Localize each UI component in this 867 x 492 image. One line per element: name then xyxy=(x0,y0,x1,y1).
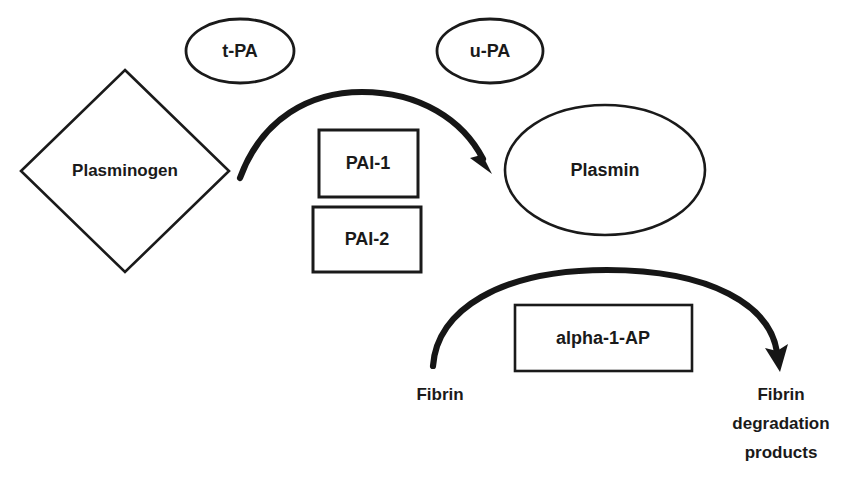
plasmin-label: Plasmin xyxy=(570,160,639,180)
node-plasmin: Plasmin xyxy=(505,105,705,235)
plasminogen-label: Plasminogen xyxy=(72,161,178,180)
node-upa: u-PA xyxy=(437,19,543,83)
fdp-line-3: products xyxy=(745,443,818,462)
fdp-line-1: Fibrin xyxy=(757,385,804,404)
fibrin-degradation-products-label: Fibrin degradation products xyxy=(732,385,829,462)
tpa-label: t-PA xyxy=(222,41,258,61)
fibrinolysis-diagram: Plasminogen t-PA u-PA Plasmin PAI-1 PAI-… xyxy=(0,0,867,492)
node-pai2: PAI-2 xyxy=(313,207,421,272)
upa-label: u-PA xyxy=(470,41,511,61)
node-alpha1ap: alpha-1-AP xyxy=(515,305,692,371)
node-tpa: t-PA xyxy=(186,19,294,83)
node-pai1: PAI-1 xyxy=(319,130,418,197)
alpha1ap-label: alpha-1-AP xyxy=(556,328,650,348)
fibrin-label: Fibrin xyxy=(416,385,463,404)
pai2-label: PAI-2 xyxy=(345,229,390,249)
pai1-label: PAI-1 xyxy=(346,153,391,173)
fdp-line-2: degradation xyxy=(732,414,829,433)
node-plasminogen: Plasminogen xyxy=(21,70,229,272)
diagram-canvas: Plasminogen t-PA u-PA Plasmin PAI-1 PAI-… xyxy=(0,0,867,492)
